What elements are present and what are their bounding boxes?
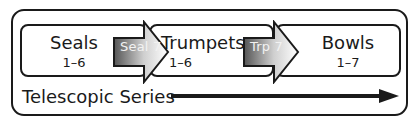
transition-arrow-trp-7: Trp 7 [242,20,300,84]
series-label: Telescopic Series [22,86,175,107]
transition-label: Seal 7 [120,39,161,54]
transition-label: Trp 7 [250,39,283,54]
transition-arrow-seal-7: Seal 7 [112,20,170,84]
series-timeline-arrow-icon [171,88,401,108]
